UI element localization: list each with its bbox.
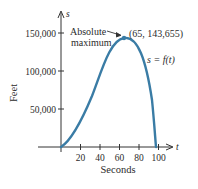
x-tick-label-100: 100 — [151, 153, 166, 163]
x-tick-label-20: 20 — [76, 153, 86, 163]
curve-s-f-t — [61, 38, 156, 147]
annotation-maximum: maximum — [71, 37, 112, 48]
y-axis-symbol: s — [66, 9, 70, 19]
x-tick-label-60: 60 — [115, 153, 125, 163]
peak-marker — [122, 36, 126, 40]
annotation-absolute: Absolute — [70, 26, 107, 37]
x-tick-label-40: 40 — [95, 153, 105, 163]
y-tick-label-50000: 50,000 — [30, 105, 56, 115]
peak-coordinates-label: (65, 143,655) — [129, 28, 183, 40]
x-tick-label-80: 80 — [134, 153, 144, 163]
y-tick-label-150000: 150,000 — [25, 29, 56, 39]
x-axis-symbol: t — [176, 142, 179, 152]
x-axis — [38, 144, 173, 150]
curve-label: s = f(t) — [147, 54, 176, 66]
y-tick-label-100000: 100,000 — [25, 67, 56, 77]
y-axis — [58, 11, 64, 152]
x-axis-title: Seconds — [101, 164, 136, 175]
chart: 150,000 100,000 50,000 20 40 60 80 100 s… — [0, 0, 198, 189]
y-axis-title: Feet — [8, 84, 19, 102]
